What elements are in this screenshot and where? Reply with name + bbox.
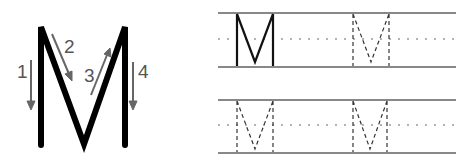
letter-m-dashed-icon <box>353 101 387 152</box>
practice-area <box>0 0 456 162</box>
letter-m-dashed-icon <box>353 14 389 66</box>
practice-row-1 <box>218 13 456 67</box>
letter-m-solid-icon <box>237 14 273 66</box>
letter-m-dashed-icon <box>237 101 273 152</box>
practice-row-2 <box>218 100 456 153</box>
